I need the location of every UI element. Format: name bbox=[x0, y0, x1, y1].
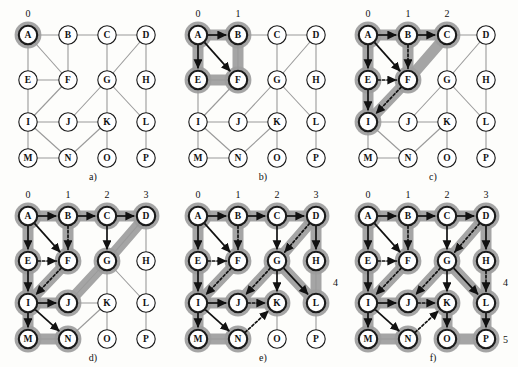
level-label-0: 0 bbox=[26, 8, 31, 19]
node-label-a: A bbox=[365, 30, 372, 40]
node-label-n: N bbox=[65, 153, 72, 163]
figure-sheet: ABCDEFGHIJKLMNOP0a)ABCDEFGHIJKLMNOP01b)A… bbox=[0, 0, 518, 367]
node-label-l: L bbox=[483, 117, 489, 127]
graph-edges bbox=[198, 35, 316, 158]
node-label-j: J bbox=[66, 117, 71, 127]
node-label-c: C bbox=[274, 30, 281, 40]
node-label-b: B bbox=[235, 30, 242, 40]
node-label-m: M bbox=[364, 334, 373, 344]
node-label-l: L bbox=[143, 117, 149, 127]
panel-caption: e) bbox=[259, 352, 267, 364]
level-label-2: 2 bbox=[275, 189, 280, 200]
level-label-2: 2 bbox=[445, 189, 450, 200]
node-label-d: D bbox=[143, 211, 150, 221]
node-label-m: M bbox=[24, 153, 33, 163]
node-label-a: A bbox=[25, 211, 32, 221]
node-label-i: I bbox=[26, 117, 30, 127]
node-label-l: L bbox=[313, 117, 319, 127]
panel-f: ABCDEFGHIJKLMNOP012345f) bbox=[340, 181, 512, 366]
node-label-k: K bbox=[273, 117, 281, 127]
node-label-j: J bbox=[406, 117, 411, 127]
node-label-k: K bbox=[443, 117, 451, 127]
panel-b: ABCDEFGHIJKLMNOP01b) bbox=[170, 0, 342, 185]
node-label-g: G bbox=[103, 256, 111, 266]
level-label-1: 1 bbox=[236, 8, 241, 19]
node-label-b: B bbox=[405, 211, 412, 221]
node-label-h: H bbox=[482, 75, 490, 85]
node-label-n: N bbox=[405, 153, 412, 163]
node-label-e: E bbox=[195, 256, 201, 266]
node-label-n: N bbox=[405, 334, 412, 344]
node-label-d: D bbox=[313, 30, 320, 40]
node-label-m: M bbox=[24, 334, 33, 344]
node-label-b: B bbox=[235, 211, 242, 221]
level-labels: 0123 bbox=[26, 189, 149, 200]
node-label-e: E bbox=[365, 256, 371, 266]
level-label-2: 2 bbox=[445, 8, 450, 19]
node-label-o: O bbox=[273, 153, 280, 163]
node-label-i: I bbox=[26, 298, 30, 308]
level-label-1: 1 bbox=[66, 189, 71, 200]
node-label-c: C bbox=[274, 211, 281, 221]
node-label-i: I bbox=[366, 298, 370, 308]
node-label-k: K bbox=[103, 117, 111, 127]
node-label-o: O bbox=[443, 334, 450, 344]
level-label-0: 0 bbox=[366, 189, 371, 200]
node-label-p: P bbox=[483, 153, 489, 163]
node-label-l: L bbox=[143, 298, 149, 308]
level-label-1: 1 bbox=[406, 189, 411, 200]
panel-caption: d) bbox=[89, 352, 97, 364]
node-label-o: O bbox=[273, 334, 280, 344]
level-label-3: 3 bbox=[314, 189, 319, 200]
node-label-b: B bbox=[405, 30, 412, 40]
panel-a: ABCDEFGHIJKLMNOP0a) bbox=[0, 0, 172, 185]
node-label-g: G bbox=[443, 256, 451, 266]
node-label-o: O bbox=[103, 153, 110, 163]
level-labels: 0 bbox=[26, 8, 31, 19]
node-label-a: A bbox=[195, 30, 202, 40]
node-label-h: H bbox=[482, 256, 490, 266]
node-label-f: F bbox=[235, 256, 241, 266]
node-label-c: C bbox=[104, 30, 111, 40]
node-label-p: P bbox=[483, 334, 489, 344]
node-label-b: B bbox=[65, 211, 72, 221]
panel-caption: f) bbox=[430, 352, 437, 364]
level-label-2: 2 bbox=[105, 189, 110, 200]
node-label-j: J bbox=[236, 117, 241, 127]
level-label-0: 0 bbox=[196, 8, 201, 19]
level-label-4: 4 bbox=[503, 277, 508, 288]
node-label-e: E bbox=[195, 75, 201, 85]
node-label-j: J bbox=[66, 298, 71, 308]
node-label-g: G bbox=[103, 75, 111, 85]
node-label-a: A bbox=[25, 30, 32, 40]
node-label-m: M bbox=[364, 153, 373, 163]
node-label-f: F bbox=[65, 75, 71, 85]
node-label-p: P bbox=[143, 153, 149, 163]
node-label-o: O bbox=[443, 153, 450, 163]
node-label-k: K bbox=[103, 298, 111, 308]
node-label-c: C bbox=[444, 30, 451, 40]
level-label-0: 0 bbox=[196, 189, 201, 200]
level-label-3: 3 bbox=[144, 189, 149, 200]
node-label-g: G bbox=[443, 75, 451, 85]
node-label-f: F bbox=[235, 75, 241, 85]
node-label-p: P bbox=[143, 334, 149, 344]
level-label-3: 3 bbox=[484, 189, 489, 200]
level-label-5: 5 bbox=[503, 334, 508, 345]
panel-c: ABCDEFGHIJKLMNOP012c) bbox=[340, 0, 512, 185]
level-labels: 01 bbox=[196, 8, 241, 19]
node-label-p: P bbox=[313, 153, 319, 163]
node-label-a: A bbox=[195, 211, 202, 221]
node-label-n: N bbox=[235, 153, 242, 163]
node-label-k: K bbox=[273, 298, 281, 308]
panel-d: ABCDEFGHIJKLMNOP0123d) bbox=[0, 181, 172, 366]
node-label-i: I bbox=[196, 117, 200, 127]
node-label-h: H bbox=[312, 256, 320, 266]
node-label-i: I bbox=[196, 298, 200, 308]
node-label-p: P bbox=[313, 334, 319, 344]
level-label-1: 1 bbox=[236, 189, 241, 200]
node-label-l: L bbox=[483, 298, 489, 308]
node-label-f: F bbox=[65, 256, 71, 266]
panel-e: ABCDEFGHIJKLMNOP01234e) bbox=[170, 181, 342, 366]
node-label-n: N bbox=[235, 334, 242, 344]
